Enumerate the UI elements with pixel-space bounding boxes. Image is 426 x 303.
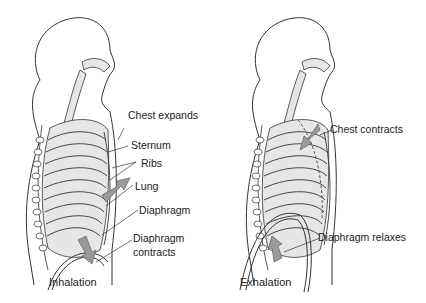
caption-inhalation: Inhalation bbox=[49, 276, 97, 288]
label-ribs: Ribs bbox=[141, 157, 162, 169]
label-diaphragm-contracts-line1: Diaphragm bbox=[133, 232, 184, 244]
label-chest-expands: Chest expands bbox=[128, 109, 198, 121]
label-chest-contracts: Chest contracts bbox=[330, 123, 403, 135]
exhalation-figure bbox=[240, 18, 336, 292]
breathing-diagram bbox=[0, 0, 426, 303]
label-diaphragm-relaxes: Diaphragm relaxes bbox=[318, 231, 406, 243]
inhalation-figure bbox=[26, 18, 138, 290]
label-sternum: Sternum bbox=[131, 139, 171, 151]
caption-exhalation: Exhalation bbox=[240, 276, 291, 288]
label-diaphragm: Diaphragm bbox=[139, 204, 190, 216]
label-diaphragm-contracts-line2: contracts bbox=[133, 246, 176, 258]
label-lung: Lung bbox=[135, 180, 158, 192]
